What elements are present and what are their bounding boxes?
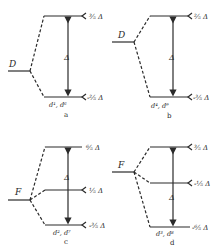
crystal-field-diagram: D Δ ³⁄₅ Δ -²⁄₅ Δ d¹, d⁶ a D Δ ²⁄₅ Δ -³⁄₅… xyxy=(0,0,224,246)
config-label-d: d³, d⁸ xyxy=(156,230,174,238)
level-label-c-top: ⁶⁄₅ Δ xyxy=(85,144,100,152)
panel-d xyxy=(112,144,192,227)
connector-c-bottom xyxy=(30,200,45,225)
tick-d-top xyxy=(188,144,192,150)
config-label-a: d¹, d⁶ xyxy=(49,101,67,109)
level-label-b-bottom: -³⁄₅ Δ xyxy=(193,94,209,102)
caption-b: b xyxy=(167,112,172,120)
term-label-a: D xyxy=(8,59,16,69)
level-label-c-mid: ¹⁄₅ Δ xyxy=(89,187,103,195)
config-label-c: d², d⁷ xyxy=(53,229,71,237)
term-label-b: D xyxy=(117,30,125,40)
connector-d-mid xyxy=(134,172,150,183)
caption-a: a xyxy=(64,111,68,119)
gap-label-d: Δ xyxy=(168,193,175,202)
gap-label-c: Δ xyxy=(63,173,70,182)
connector-b-bottom xyxy=(134,42,150,97)
level-label-d-mid: -¹⁄₅ Δ xyxy=(194,180,210,188)
tick-c-bottom xyxy=(82,222,86,228)
connector-d-top xyxy=(134,147,150,172)
level-label-b-top: ²⁄₅ Δ xyxy=(194,13,208,21)
connector-d-bottom xyxy=(134,172,150,227)
tick-b-top xyxy=(188,13,192,19)
term-label-d: F xyxy=(117,160,125,170)
connector-a-bottom xyxy=(30,71,44,97)
tick-b-bottom xyxy=(188,94,192,100)
caption-d: d xyxy=(170,239,175,246)
panel-b xyxy=(112,13,192,100)
tick-c-mid xyxy=(82,187,86,193)
caption-c: c xyxy=(64,238,68,246)
gap-label-a: Δ xyxy=(63,53,70,62)
connector-a-top xyxy=(30,16,44,71)
term-label-c: F xyxy=(14,187,22,197)
tick-d-mid xyxy=(188,180,192,186)
tick-a-top xyxy=(82,13,86,19)
level-label-a-top: ³⁄₅ Δ xyxy=(89,13,103,21)
level-label-d-top: ³⁄₅ Δ xyxy=(194,144,208,152)
panel-a xyxy=(8,13,86,100)
connector-c-mid xyxy=(30,190,45,200)
config-label-b: d⁴, d⁹ xyxy=(151,102,169,110)
level-label-a-bottom: -²⁄₅ Δ xyxy=(87,94,103,102)
tick-a-bottom xyxy=(82,94,86,100)
connector-b-top xyxy=(134,16,150,42)
level-label-d-bottom: -⁶⁄₅ Δ xyxy=(192,224,208,232)
gap-label-b: Δ xyxy=(168,53,175,62)
level-label-c-bottom: -³⁄₅ Δ xyxy=(89,222,105,230)
